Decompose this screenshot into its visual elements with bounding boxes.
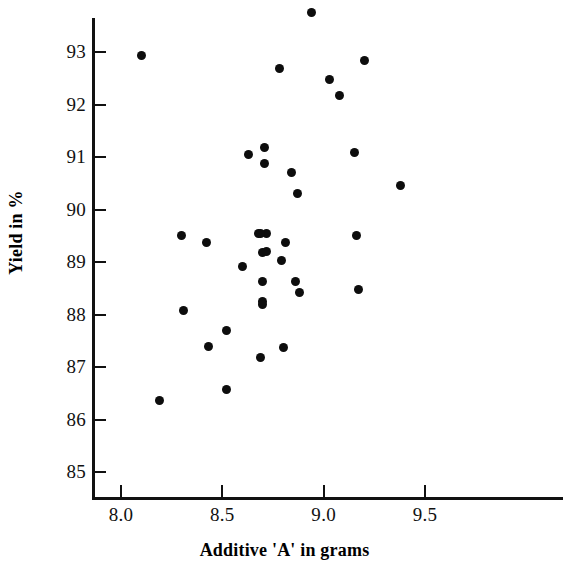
data-point xyxy=(352,231,361,240)
y-axis-tick-label: 85 xyxy=(38,462,86,481)
data-point xyxy=(262,229,271,238)
x-axis-line xyxy=(92,497,563,500)
data-point xyxy=(279,343,288,352)
x-axis-tick xyxy=(120,485,122,497)
data-point xyxy=(360,56,369,65)
x-axis-tick-label: 8.0 xyxy=(91,504,151,525)
data-point xyxy=(291,277,300,286)
y-axis-tick-label-text: 92 xyxy=(46,95,86,114)
data-point xyxy=(177,231,186,240)
data-point xyxy=(222,385,231,394)
y-axis-tick-label-text: 85 xyxy=(46,462,86,481)
data-point xyxy=(256,229,265,238)
data-point xyxy=(262,247,271,256)
data-point xyxy=(307,8,316,17)
y-axis-line xyxy=(92,18,95,500)
y-axis-tick-label: 92 xyxy=(38,95,86,114)
y-axis-tick-label-text: 91 xyxy=(46,147,86,166)
y-axis-tick xyxy=(95,261,106,263)
y-axis-tick-label: 93 xyxy=(38,42,86,61)
y-axis-tick-label-text: 90 xyxy=(46,200,86,219)
y-axis-tick-label: 90 xyxy=(38,200,86,219)
y-axis-tick xyxy=(95,471,106,473)
data-point xyxy=(350,148,359,157)
y-axis-tick xyxy=(95,419,106,421)
data-point xyxy=(222,326,231,335)
y-axis-tick xyxy=(95,51,106,53)
data-point xyxy=(277,256,286,265)
x-axis-tick xyxy=(424,485,426,497)
data-point xyxy=(202,238,211,247)
data-point xyxy=(287,168,296,177)
data-point xyxy=(258,300,267,309)
data-point xyxy=(179,306,188,315)
y-axis-tick-label-text: 87 xyxy=(46,357,86,376)
x-axis-tick xyxy=(221,485,223,497)
data-point xyxy=(204,342,213,351)
data-point xyxy=(258,297,267,306)
y-axis-tick-label: 91 xyxy=(38,147,86,166)
data-point xyxy=(137,51,146,60)
data-point xyxy=(260,159,269,168)
data-point xyxy=(281,238,290,247)
data-point xyxy=(295,288,304,297)
data-point xyxy=(155,396,164,405)
x-axis-title: Additive 'A' in grams xyxy=(0,540,569,561)
y-axis-tick-label: 86 xyxy=(38,410,86,429)
x-axis-tick-label: 9.5 xyxy=(395,504,455,525)
y-axis-tick xyxy=(95,314,106,316)
y-axis-tick xyxy=(95,366,106,368)
data-point xyxy=(335,91,344,100)
x-axis-tick-label: 8.5 xyxy=(192,504,252,525)
y-axis-tick xyxy=(95,156,106,158)
data-point xyxy=(238,262,247,271)
data-point xyxy=(396,181,405,190)
y-axis-tick xyxy=(95,104,106,106)
y-axis-tick-label: 89 xyxy=(38,252,86,271)
data-point xyxy=(258,248,267,257)
data-point xyxy=(275,64,284,73)
y-axis-tick-label-text: 88 xyxy=(46,305,86,324)
data-point xyxy=(254,229,263,238)
data-point xyxy=(260,143,269,152)
y-axis-tick-label-text: 86 xyxy=(46,410,86,429)
y-axis-tick-label: 87 xyxy=(38,357,86,376)
y-axis-tick-label-text: 89 xyxy=(46,252,86,271)
x-axis-tick xyxy=(323,485,325,497)
x-axis-tick-label: 9.0 xyxy=(294,504,354,525)
y-axis-tick-label-text: 93 xyxy=(46,42,86,61)
scatter-plot-figure: 858687888990919293 8.08.59.09.5 Yield in… xyxy=(0,0,569,585)
y-axis-tick xyxy=(95,209,106,211)
data-point xyxy=(354,285,363,294)
data-point xyxy=(256,353,265,362)
y-axis-title: Yield in % xyxy=(6,173,27,293)
data-point xyxy=(293,189,302,198)
data-point xyxy=(258,277,267,286)
data-point xyxy=(244,150,253,159)
y-axis-tick-label: 88 xyxy=(38,305,86,324)
data-point xyxy=(325,75,334,84)
